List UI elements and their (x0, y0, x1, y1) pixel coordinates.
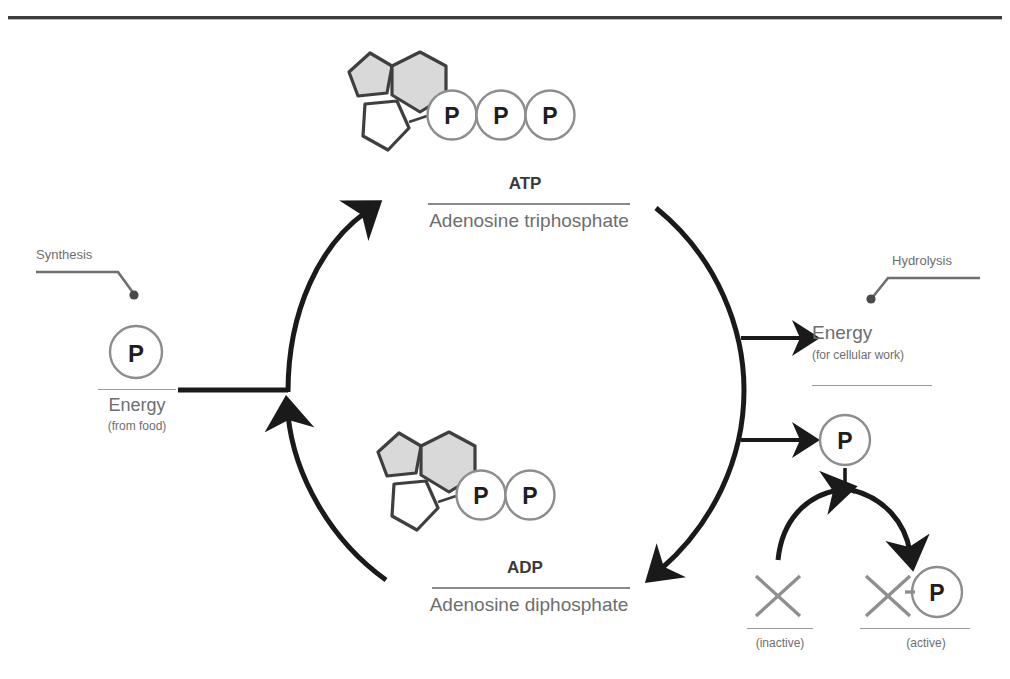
atp-phosphate-2-label: P (493, 103, 508, 129)
synthesis-leader-dot (129, 290, 138, 299)
ribose-pentagon-top (363, 101, 409, 150)
atp-phosphate-3-label: P (542, 103, 557, 129)
synthesis-arc-lower (288, 415, 386, 580)
atp-divider-rule (428, 203, 630, 205)
hydrolysis-leader-dot (866, 294, 875, 303)
free-phosphate-label: P (837, 428, 852, 454)
inactive-label: (inactive) (756, 636, 805, 650)
adenine-pentagon-top (349, 53, 392, 96)
energy-input-divider-rule (98, 389, 176, 390)
input-phosphate-label: P (128, 340, 144, 367)
active-divider-rule (860, 628, 970, 629)
atp-abbrev-label: ATP (509, 174, 542, 194)
adp-divider-rule (432, 587, 630, 589)
energy-input-label: Energy (108, 395, 165, 416)
activation-arc-right (852, 490, 910, 552)
hydrolysis-label: Hydrolysis (892, 253, 952, 268)
energy-input-sublabel: (from food) (108, 419, 167, 433)
synthesis-label: Synthesis (36, 247, 92, 262)
inactive-protein-symbol (756, 576, 800, 616)
adenine-pentagon-bottom (378, 433, 421, 476)
hydrolysis-leader (866, 278, 980, 304)
synthesis-leader (36, 272, 139, 300)
activation-arc-left (778, 490, 838, 560)
synthesis-leader-line (36, 272, 134, 294)
adp-phosphate-2-label: P (522, 483, 537, 509)
inactive-divider-rule (747, 628, 813, 629)
hydrolysis-leader-line (872, 278, 980, 298)
atp-phosphate-1-label: P (444, 103, 459, 129)
active-label: (active) (906, 636, 945, 650)
atp-molecule: P P P (349, 52, 575, 150)
bound-phosphate-label: P (929, 580, 944, 606)
ribose-pentagon-bottom (392, 481, 438, 530)
adp-abbrev-label: ADP (507, 558, 543, 578)
adp-full-name-label: Adenosine diphosphate (430, 594, 629, 616)
diagram-page: P P P P P (0, 0, 1010, 679)
synthesis-arc-upper (288, 212, 366, 392)
adp-molecule: P P (378, 432, 555, 530)
adp-phosphate-1-label: P (473, 483, 488, 509)
ribose-phosphate-bond-bottom (438, 496, 456, 502)
energy-output-sublabel: (for cellular work) (812, 348, 904, 362)
ribose-phosphate-bond-top (409, 116, 427, 122)
atp-full-name-label: Adenosine triphosphate (429, 210, 629, 232)
energy-output-label: Energy (812, 322, 872, 344)
hydrolysis-arc (656, 208, 744, 570)
energy-output-divider-rule (812, 385, 932, 386)
